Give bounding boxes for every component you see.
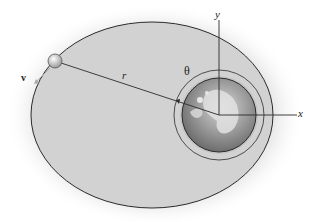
satellite-icon <box>48 54 62 68</box>
x-axis-label: x <box>298 108 303 119</box>
y-axis-label: y <box>215 9 220 20</box>
velocity-label: v <box>21 73 26 83</box>
orbit-figure <box>0 0 320 222</box>
orbit-diagram: v r θ y x <box>0 0 320 222</box>
theta-label: θ <box>184 65 190 77</box>
radius-label: r <box>122 70 126 81</box>
